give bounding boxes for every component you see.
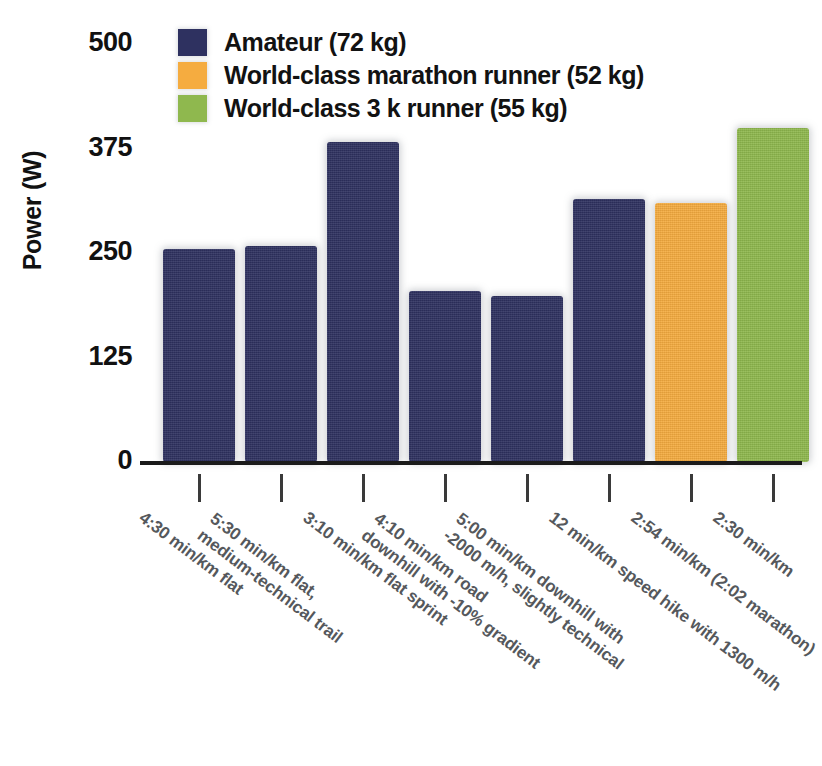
x-tick-6 [608,474,611,502]
bar-1[interactable] [163,249,235,462]
bar-7[interactable] [655,203,727,462]
bar-5[interactable] [491,296,563,462]
legend-swatch-marathon [178,62,207,89]
bar-texture [327,142,399,462]
bar-texture [409,291,481,462]
bar-8[interactable] [737,128,809,462]
power-bar-chart: 5003752501250 Power (W) Amateur (72 kg)W… [0,0,822,766]
y-tick-label-125: 125 [42,343,132,370]
x-tick-8 [772,474,775,502]
legend-item-2[interactable]: World-class marathon runner (52 kg) [178,60,644,91]
bar-texture [737,128,809,462]
bar-2[interactable] [245,246,317,462]
bar-6[interactable] [573,199,645,462]
y-tick-label-250: 250 [42,238,132,265]
y-tick-label-0: 0 [42,447,132,474]
legend-swatch-3k [178,95,207,122]
bar-3[interactable] [327,142,399,462]
x-tick-2 [280,474,283,502]
x-tick-3 [362,474,365,502]
x-tick-7 [690,474,693,502]
bar-texture [163,249,235,462]
bar-texture [573,199,645,462]
chart-legend: Amateur (72 kg)World-class marathon runn… [178,27,644,126]
x-axis-line [140,461,802,465]
legend-label-3: World-class 3 k runner (55 kg) [224,94,567,123]
legend-item-3[interactable]: World-class 3 k runner (55 kg) [178,93,644,124]
x-axis-label-line: medium-technical trail [193,526,346,649]
bar-texture [245,246,317,462]
bar-4[interactable] [409,291,481,462]
x-tick-5 [526,474,529,502]
x-tick-4 [444,474,447,502]
legend-label-2: World-class marathon runner (52 kg) [224,61,644,90]
legend-swatch-amateur [178,29,207,56]
x-tick-1 [198,474,201,502]
y-axis-tick-labels: 5003752501250 [28,0,132,766]
y-tick-label-500: 500 [42,29,132,56]
bar-texture [491,296,563,462]
legend-label-1: Amateur (72 kg) [224,28,406,57]
y-tick-label-375: 375 [42,134,132,161]
legend-item-1[interactable]: Amateur (72 kg) [178,27,644,58]
y-axis-title: Power (W) [18,141,47,281]
bar-texture [655,203,727,462]
